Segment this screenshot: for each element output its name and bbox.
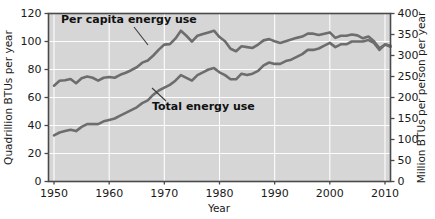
total-energy-annotation-label: Total energy use (152, 100, 255, 113)
x-tick-label: 1980 (206, 187, 234, 200)
left-tick-label: 40 (28, 119, 42, 132)
right-tick-label: 50 (398, 154, 412, 167)
x-tick-label: 1950 (40, 187, 68, 200)
left-tick-label: 20 (28, 147, 42, 160)
left-tick-label: 60 (28, 91, 42, 104)
x-axis-title: Year (207, 202, 231, 214)
left-tick-label: 100 (21, 35, 42, 48)
energy-use-chart-figure: 020406080100120 050100150200250300350400… (0, 0, 435, 219)
per-capita-annotation-label: Per capita energy use (61, 13, 197, 26)
x-tick-label: 2010 (371, 187, 399, 200)
x-tick-label: 2000 (316, 187, 344, 200)
left-tick-label: 80 (28, 63, 42, 76)
x-tick-label: 1970 (150, 187, 178, 200)
x-tick-label: 1990 (261, 187, 289, 200)
left-tick-label: 120 (21, 7, 42, 20)
x-tick-label: 1960 (95, 187, 123, 200)
left-axis-title: Quadrillion BTUs per year (2, 29, 14, 164)
chart-canvas: 020406080100120 050100150200250300350400… (0, 0, 435, 219)
right-axis-title: Million BTUs per person per year (415, 11, 427, 183)
